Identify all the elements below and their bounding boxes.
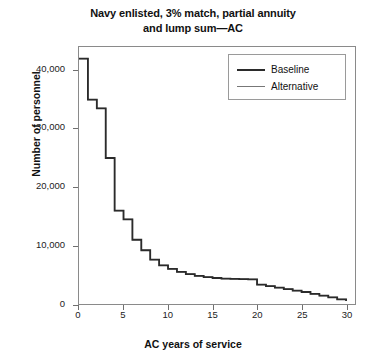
x-axis-tick-label: 5 [103,309,143,320]
x-axis-tick-label: 10 [148,309,188,320]
x-axis-tick-label: 30 [327,309,367,320]
chart-figure: Navy enlisted, 3% match, partial annuity… [0,0,386,364]
legend-swatch-icon [237,86,265,87]
legend-label: Baseline [271,64,309,75]
y-axis-tick-label: 10,000 [5,239,65,250]
x-axis-tick-label: 0 [58,309,98,320]
y-axis-label: Number of personnel [30,44,42,204]
legend-label: Alternative [271,81,318,92]
x-axis-label: AC years of service [0,338,386,350]
y-axis-tick-label: 0 [5,298,65,309]
x-axis-tick-label: 20 [237,309,277,320]
chart-title-line-1: Navy enlisted, 3% match, partial annuity [90,7,296,19]
legend-swatch-icon [237,69,265,71]
legend-item-baseline: Baseline [237,62,309,77]
x-axis-tick-label: 25 [282,309,322,320]
chart-legend: BaselineAlternative [228,54,346,100]
legend-item-alternative: Alternative [237,79,318,94]
x-axis-tick-label: 15 [193,309,233,320]
